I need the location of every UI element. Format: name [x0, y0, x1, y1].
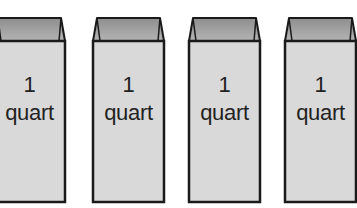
- carton-quantity: 1: [92, 73, 165, 97]
- carton-quantity: 1: [284, 73, 357, 97]
- carton-quantity: 1: [188, 73, 261, 97]
- carton-2: 1 quart: [92, 17, 165, 203]
- carton-3: 1 quart: [188, 17, 261, 203]
- carton-4: 1 quart: [284, 17, 357, 203]
- carton-unit: quart: [188, 101, 261, 125]
- carton-1: 1 quart: [0, 17, 66, 203]
- carton-unit: quart: [92, 101, 165, 125]
- carton-unit: quart: [284, 101, 357, 125]
- carton-quantity: 1: [0, 73, 66, 97]
- carton-unit: quart: [0, 101, 66, 125]
